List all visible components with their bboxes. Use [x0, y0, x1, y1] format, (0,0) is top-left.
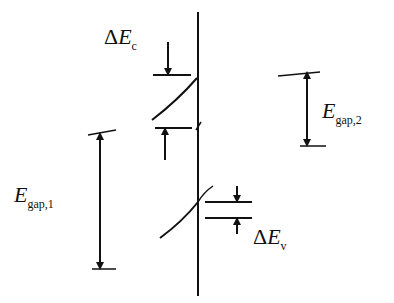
conduction-band-bend [152, 78, 197, 120]
valence-band-bend [160, 202, 198, 238]
egap2-label: Egap,2 [322, 98, 362, 128]
egap2-top-tick [278, 72, 320, 76]
egap1-label: Egap,1 [14, 182, 54, 212]
egap1-top-tick [88, 130, 116, 135]
band-diagram-lines [0, 0, 394, 303]
band-diagram: ΔEc Egap,2 Egap,1 ΔEv [0, 0, 394, 303]
delta-ec-label: ΔEc [104, 24, 137, 54]
delta-ev-label: ΔEv [253, 224, 287, 254]
